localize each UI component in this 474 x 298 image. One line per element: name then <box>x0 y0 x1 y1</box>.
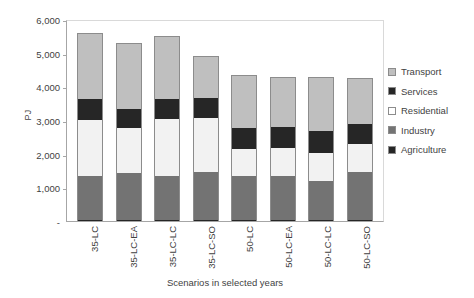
y-axis-tick-label: 4,000 <box>36 82 60 93</box>
bar-segment-residential[interactable] <box>308 153 334 181</box>
bar-segment-agriculture[interactable] <box>77 220 103 221</box>
bar-segment-residential[interactable] <box>77 120 103 176</box>
bar-segment-services[interactable] <box>193 98 219 119</box>
x-axis-tick-labels: 35-LC35-LC-EA35-LC-LC35-LC-SO50-LC50-LC-… <box>66 224 384 276</box>
legend-swatch-icon <box>388 126 396 134</box>
bar-segment-industry[interactable] <box>270 176 296 221</box>
bar-segment-services[interactable] <box>347 124 373 144</box>
x-axis-tick-label: 35-LC-LC <box>167 226 178 267</box>
x-axis-tick-label-wrap: 50-LC <box>231 224 257 276</box>
y-axis-tick-label: 2,000 <box>36 149 60 160</box>
bar-segment-industry[interactable] <box>116 173 142 220</box>
bar-segment-services[interactable] <box>116 109 142 129</box>
stacked-bar-chart: PJ 6,0005,0004,0003,0002,0001,000- 35-LC… <box>0 0 474 298</box>
legend-label: Services <box>401 86 437 97</box>
bar-50-lc[interactable] <box>231 21 257 221</box>
legend-label: Residential <box>401 105 448 116</box>
bar-segment-services[interactable] <box>154 99 180 119</box>
bar-segment-transport[interactable] <box>308 77 334 131</box>
x-axis-tick-label: 35-LC <box>89 226 100 252</box>
plot-area <box>66 20 384 222</box>
bar-segment-agriculture[interactable] <box>154 220 180 221</box>
x-axis-title: Scenarios in selected years <box>66 277 384 288</box>
legend-label: Agriculture <box>401 144 446 155</box>
legend-swatch-icon <box>388 146 396 154</box>
legend-item-agriculture[interactable]: Agriculture <box>388 144 474 155</box>
x-axis-tick-label-wrap: 50-LC-SO <box>348 224 374 276</box>
bar-segment-services[interactable] <box>308 131 334 153</box>
x-axis-tick-label: 35-LC-SO <box>206 226 217 269</box>
bar-segment-industry[interactable] <box>308 181 334 220</box>
bar-35-lc-lc[interactable] <box>154 21 180 221</box>
legend-label: Industry <box>401 125 435 136</box>
chart-legend: TransportServicesResidentialIndustryAgri… <box>388 66 474 164</box>
x-axis-tick-label-wrap: 35-LC <box>76 224 102 276</box>
bar-segment-residential[interactable] <box>116 128 142 173</box>
bar-segment-agriculture[interactable] <box>116 220 142 221</box>
bar-segment-services[interactable] <box>231 128 257 149</box>
bar-35-lc-ea[interactable] <box>116 21 142 221</box>
bar-segment-residential[interactable] <box>193 118 219 171</box>
bar-segment-industry[interactable] <box>231 176 257 221</box>
y-axis-tick <box>63 21 67 22</box>
bar-segment-agriculture[interactable] <box>308 220 334 221</box>
bar-segment-services[interactable] <box>77 99 103 120</box>
y-axis-tick <box>63 88 67 89</box>
y-axis-tick-label: - <box>57 217 60 228</box>
x-axis-tick-label: 35-LC-EA <box>128 226 139 268</box>
legend-item-services[interactable]: Services <box>388 86 474 97</box>
bar-segment-transport[interactable] <box>154 36 180 99</box>
y-axis-tick <box>63 189 67 190</box>
legend-item-industry[interactable]: Industry <box>388 125 474 136</box>
bar-segment-transport[interactable] <box>193 56 219 97</box>
bar-segment-residential[interactable] <box>347 144 373 172</box>
bar-50-lc-lc[interactable] <box>308 21 334 221</box>
bar-segment-agriculture[interactable] <box>231 220 257 221</box>
bar-50-lc-so[interactable] <box>347 21 373 221</box>
bar-segment-industry[interactable] <box>154 176 180 221</box>
y-axis-tick-label: 6,000 <box>36 15 60 26</box>
y-axis-tick <box>63 122 67 123</box>
bar-segment-transport[interactable] <box>270 77 296 128</box>
x-axis-tick-label-wrap: 50-LC-EA <box>270 224 296 276</box>
bar-segment-industry[interactable] <box>347 172 373 221</box>
y-axis-tick <box>63 55 67 56</box>
bar-35-lc-so[interactable] <box>193 21 219 221</box>
bar-segment-industry[interactable] <box>193 172 219 221</box>
x-axis-tick-label: 50-LC-EA <box>283 226 294 268</box>
y-axis-tick-label: 5,000 <box>36 48 60 59</box>
y-axis-tick-label: 3,000 <box>36 116 60 127</box>
bar-segment-transport[interactable] <box>231 75 257 128</box>
bar-segment-agriculture[interactable] <box>270 220 296 221</box>
legend-label: Transport <box>401 66 441 77</box>
bar-35-lc[interactable] <box>77 21 103 221</box>
bar-series-group <box>67 21 383 221</box>
bar-segment-agriculture[interactable] <box>347 220 373 221</box>
legend-swatch-icon <box>388 87 396 95</box>
legend-swatch-icon <box>388 68 396 76</box>
x-axis-tick-label: 50-LC-SO <box>361 226 372 269</box>
bar-segment-residential[interactable] <box>154 119 180 176</box>
bar-50-lc-ea[interactable] <box>270 21 296 221</box>
bar-segment-residential[interactable] <box>270 148 296 176</box>
x-axis-tick-label-wrap: 35-LC-LC <box>154 224 180 276</box>
bar-segment-residential[interactable] <box>231 149 257 176</box>
bar-segment-industry[interactable] <box>77 176 103 221</box>
x-axis-tick-label-wrap: 35-LC-SO <box>193 224 219 276</box>
bar-segment-agriculture[interactable] <box>193 220 219 221</box>
x-axis-tick-label: 50-LC-LC <box>322 226 333 267</box>
bar-segment-services[interactable] <box>270 127 296 148</box>
bar-segment-transport[interactable] <box>116 43 142 109</box>
legend-item-transport[interactable]: Transport <box>388 66 474 77</box>
x-axis-tick-label-wrap: 50-LC-LC <box>309 224 335 276</box>
legend-item-residential[interactable]: Residential <box>388 105 474 116</box>
y-axis-tick-labels: 6,0005,0004,0003,0002,0001,000- <box>0 0 66 298</box>
x-axis-tick-label-wrap: 35-LC-EA <box>115 224 141 276</box>
y-axis-tick-label: 1,000 <box>36 183 60 194</box>
y-axis-tick <box>63 156 67 157</box>
legend-swatch-icon <box>388 107 396 115</box>
bar-segment-transport[interactable] <box>77 33 103 99</box>
bar-segment-transport[interactable] <box>347 78 373 124</box>
x-axis-tick-label: 50-LC <box>244 226 255 252</box>
